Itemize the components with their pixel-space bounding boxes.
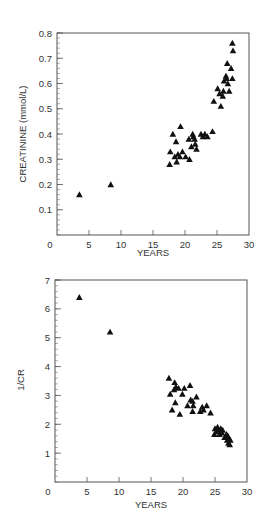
- triangle-marker: [187, 382, 194, 388]
- y-tick-label: 0.6: [39, 78, 52, 89]
- x-tick-label: 10: [116, 239, 127, 250]
- triangle-marker: [211, 98, 218, 104]
- y-tick-label: 0.4: [39, 129, 52, 140]
- triangle-marker: [177, 123, 184, 129]
- triangle-marker: [209, 128, 216, 134]
- triangle-marker: [179, 148, 186, 154]
- y-axis-ticks: 1234567: [45, 275, 61, 483]
- triangle-marker: [181, 385, 188, 391]
- x-tick-label: 20: [180, 239, 191, 250]
- y-axis-ticks: 0.10.20.30.40.50.60.70.8: [39, 28, 63, 236]
- triangle-marker: [218, 103, 225, 109]
- y-axis-label: CREATININE (mmol/L): [17, 86, 28, 183]
- triangle-marker: [173, 138, 180, 144]
- x-tick-label: 15: [146, 486, 157, 497]
- data-points: [76, 40, 236, 197]
- triangle-marker: [76, 191, 83, 197]
- y-tick-label: 0.8: [39, 28, 52, 39]
- triangle-marker: [229, 40, 236, 46]
- x-tick-label: 0: [45, 486, 50, 497]
- y-tick-label: 0.2: [39, 179, 52, 190]
- x-tick-label: 20: [178, 486, 189, 497]
- y-tick-label: 5: [45, 332, 50, 343]
- y-tick-label: 2: [45, 419, 50, 430]
- creatinine-chart: CREATININE (mmol/L) 0.10.20.30.40.50.60.…: [0, 0, 267, 258]
- y-tick-label: 7: [45, 275, 50, 286]
- triangle-marker: [179, 391, 186, 397]
- data-points: [76, 294, 234, 447]
- reciprocal-creatinine-chart: 1/CR 1234567 051015202530 YEARS: [0, 258, 267, 517]
- x-tick-label: 25: [210, 486, 221, 497]
- x-tick-label: 0: [47, 239, 52, 250]
- triangle-marker: [166, 375, 173, 381]
- triangle-marker: [171, 379, 178, 385]
- y-tick-label: 0.1: [39, 204, 52, 215]
- triangle-marker: [172, 399, 179, 405]
- triangle-marker: [226, 88, 233, 94]
- triangle-marker: [230, 47, 237, 53]
- y-tick-label: 6: [45, 303, 50, 314]
- triangle-marker: [220, 88, 227, 94]
- x-tick-label: 30: [244, 239, 255, 250]
- x-axis-label: YEARS: [135, 499, 167, 510]
- x-axis-label: YEARS: [137, 247, 169, 258]
- y-tick-label: 0.3: [39, 154, 52, 165]
- plot-frame: [55, 280, 247, 482]
- triangle-marker: [166, 161, 173, 167]
- y-tick-label: 3: [45, 390, 50, 401]
- triangle-marker: [173, 158, 180, 164]
- triangle-marker: [224, 60, 231, 66]
- triangle-marker: [167, 148, 174, 154]
- y-tick-label: 4: [45, 361, 50, 372]
- triangle-marker: [177, 411, 184, 417]
- triangle-marker: [76, 294, 83, 300]
- triangle-marker: [203, 402, 210, 408]
- x-tick-label: 5: [86, 239, 91, 250]
- triangle-marker: [229, 75, 236, 81]
- x-tick-label: 25: [212, 239, 223, 250]
- triangle-marker: [214, 85, 221, 91]
- svg-text:1/CR: 1/CR: [15, 369, 26, 391]
- x-tick-label: 5: [84, 486, 89, 497]
- y-tick-label: 0.5: [39, 103, 52, 114]
- y-tick-label: 0.7: [39, 53, 52, 64]
- triangle-marker: [189, 408, 196, 414]
- triangle-marker: [182, 153, 189, 159]
- triangle-marker: [169, 407, 176, 413]
- triangle-marker: [107, 181, 114, 187]
- triangle-marker: [107, 329, 114, 335]
- y-tick-label: 1: [45, 448, 50, 459]
- triangle-marker: [193, 394, 200, 400]
- triangle-marker: [207, 409, 214, 415]
- x-tick-label: 10: [114, 486, 125, 497]
- y-axis-label: 1/CR: [15, 369, 26, 391]
- x-axis-ticks: 051015202530: [45, 477, 252, 497]
- triangle-marker: [228, 65, 235, 71]
- triangle-marker: [170, 131, 177, 137]
- triangle-marker: [192, 141, 199, 147]
- svg-text:CREATININE (mmol/L): CREATININE (mmol/L): [17, 86, 28, 183]
- x-tick-label: 30: [242, 486, 253, 497]
- plot-frame: [57, 33, 249, 235]
